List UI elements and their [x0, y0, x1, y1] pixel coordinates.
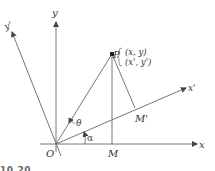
- rotation-diagram: y x y' x' O P M M' (x, y) (x', y') θ α: [0, 0, 215, 171]
- point-M-label: M: [107, 148, 119, 159]
- point-P-label: P: [112, 49, 120, 60]
- alpha-arc: [84, 132, 85, 144]
- rotated-coordinates-label: (x', y'): [125, 57, 151, 67]
- x-axis-label: x: [199, 139, 205, 150]
- point-M-prime-label: M': [134, 113, 148, 124]
- segment-OP: [56, 54, 112, 144]
- y-prime-axis-label: y': [2, 20, 13, 32]
- alpha-label: α: [87, 133, 93, 143]
- y-prime-axis: [12, 32, 61, 156]
- y-axis-label: y: [51, 7, 58, 18]
- origin-label: O: [46, 148, 54, 159]
- x-prime-axis: [56, 88, 186, 144]
- theta-label: θ: [76, 118, 82, 128]
- x-prime-axis-label: x': [188, 83, 196, 93]
- figure-caption-fragment: 10.20: [0, 165, 31, 171]
- original-coordinates-label: (x, y): [125, 47, 147, 57]
